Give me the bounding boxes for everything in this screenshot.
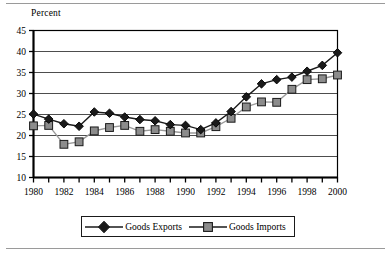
- data-point-square-1998: [303, 76, 311, 84]
- data-point-diamond-1980: [29, 110, 38, 119]
- y-tick-label-45: 45: [17, 26, 27, 36]
- y-tick-label-30: 30: [17, 89, 27, 99]
- data-point-diamond-1997: [288, 73, 297, 82]
- data-point-square-1988: [151, 126, 159, 134]
- legend-item-goods-exports: Goods Exports: [84, 220, 188, 234]
- y-tick-label-20: 20: [17, 131, 27, 141]
- figure-container: Percent 4540353025201510 198019821984198…: [0, 0, 391, 255]
- data-point-square-1987: [136, 127, 144, 135]
- x-tick-label-1994: 1994: [237, 187, 256, 197]
- data-point-square-1983: [75, 138, 83, 146]
- x-tick-label-1990: 1990: [176, 187, 195, 197]
- x-tick-label-1996: 1996: [267, 187, 286, 197]
- x-tick-label-1982: 1982: [54, 187, 73, 197]
- data-point-diamond-1982: [60, 119, 69, 128]
- x-tick-label-1988: 1988: [146, 187, 165, 197]
- chart-legend: Goods Exports Goods Imports: [81, 216, 295, 237]
- data-point-diamond-1998: [303, 67, 312, 76]
- data-point-square-2000: [334, 71, 342, 79]
- y-axis-tick-labels-group: 4540353025201510: [17, 26, 27, 183]
- series-goods-imports: [30, 71, 342, 148]
- data-point-diamond-1985: [105, 109, 114, 118]
- data-point-diamond-1987: [136, 115, 145, 124]
- x-tick-label-1992: 1992: [206, 187, 225, 197]
- data-point-square-1985: [106, 124, 114, 132]
- data-point-square-1997: [288, 85, 296, 93]
- y-tick-label-10: 10: [17, 173, 27, 183]
- plot-border: [34, 31, 338, 178]
- data-point-square-1994: [242, 103, 250, 111]
- data-point-square-1984: [90, 127, 98, 135]
- data-point-square-1999: [318, 75, 326, 83]
- data-point-square-1995: [258, 98, 266, 106]
- data-point-diamond-1990: [181, 121, 190, 130]
- data-point-diamond-1996: [272, 75, 281, 84]
- data-point-square-1980: [30, 122, 38, 130]
- data-point-square-1986: [121, 122, 129, 130]
- plot-frame: [34, 31, 338, 178]
- square-marker-icon: [188, 220, 228, 234]
- x-tick-label-1998: 1998: [298, 187, 317, 197]
- x-tick-label-2000: 2000: [328, 187, 347, 197]
- y-tick-label-35: 35: [17, 68, 27, 78]
- y-tick-label-40: 40: [17, 47, 27, 57]
- x-tick-label-1986: 1986: [115, 187, 134, 197]
- legend-label-goods-exports: Goods Exports: [124, 222, 188, 232]
- data-point-square-1982: [60, 140, 68, 148]
- legend-label-goods-imports: Goods Imports: [228, 222, 292, 232]
- legend-item-goods-imports: Goods Imports: [188, 220, 292, 234]
- diamond-marker-icon: [84, 220, 124, 234]
- data-point-diamond-1988: [151, 117, 160, 126]
- x-axis-tick-labels-group: 1980198219841986198819901992199419961998…: [24, 187, 347, 197]
- y-tick-label-25: 25: [17, 110, 27, 120]
- data-point-square-1996: [273, 98, 281, 106]
- x-tick-label-1984: 1984: [85, 187, 104, 197]
- x-tick-label-1980: 1980: [24, 187, 43, 197]
- y-tick-label-15: 15: [17, 152, 27, 162]
